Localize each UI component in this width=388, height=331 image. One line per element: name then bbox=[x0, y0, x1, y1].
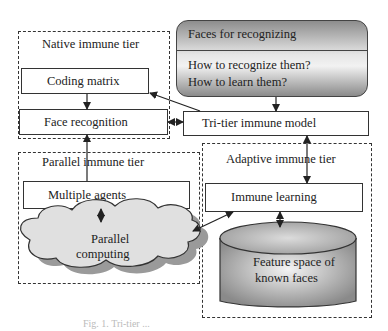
cloud-label-line-2: computing bbox=[76, 247, 129, 262]
diagram-graphics bbox=[0, 0, 388, 331]
figure-caption: Fig. 1. Tri-tier ... bbox=[83, 318, 150, 329]
cloud-label-line-1: Parallel bbox=[91, 232, 129, 247]
database-label-line-2: known faces bbox=[255, 271, 318, 286]
database-label-line-1: Feature space of bbox=[253, 255, 335, 270]
